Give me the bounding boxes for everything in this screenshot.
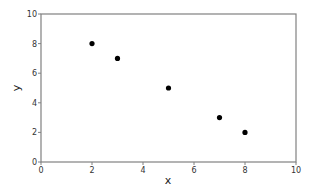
data-point xyxy=(217,115,222,120)
x-tick-label: 4 xyxy=(140,166,145,175)
x-tick-label: 10 xyxy=(291,166,301,175)
scatter-chart: 0246810 0246810 x y xyxy=(0,0,315,189)
y-axis-ticks: 0246810 xyxy=(27,10,41,167)
y-tick-label: 6 xyxy=(32,69,37,78)
y-tick-label: 10 xyxy=(27,10,37,19)
y-tick-label: 2 xyxy=(32,128,37,137)
x-tick-label: 6 xyxy=(191,166,196,175)
y-tick-label: 8 xyxy=(32,40,37,49)
data-point xyxy=(89,41,94,46)
x-tick-label: 0 xyxy=(38,166,43,175)
data-point xyxy=(115,56,120,61)
y-tick-label: 4 xyxy=(32,99,37,108)
x-tick-label: 8 xyxy=(242,166,247,175)
y-axis-label: y xyxy=(10,84,23,91)
data-point xyxy=(166,85,171,90)
data-points xyxy=(89,41,247,135)
y-tick-label: 0 xyxy=(32,158,37,167)
x-tick-label: 2 xyxy=(89,166,94,175)
x-axis-label: x xyxy=(165,174,172,187)
data-point xyxy=(242,130,247,135)
